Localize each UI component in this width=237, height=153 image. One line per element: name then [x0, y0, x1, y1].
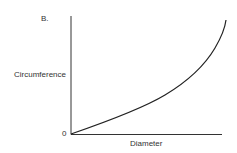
panel-label: B.: [41, 15, 49, 23]
y-axis-label: Circumference: [14, 71, 66, 79]
data-curve: [71, 20, 226, 134]
origin-label: 0: [62, 130, 66, 138]
x-axis-label: Diameter: [130, 140, 162, 148]
